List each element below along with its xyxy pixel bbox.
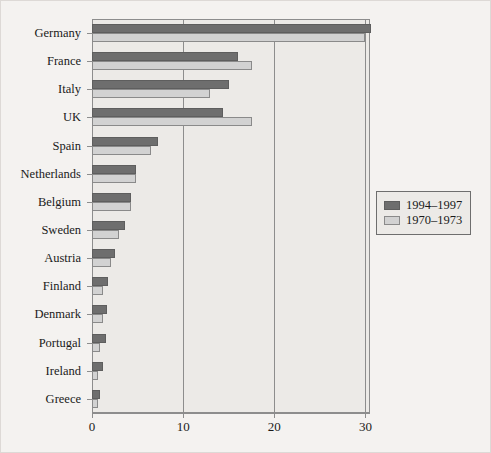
category-label-portugal: Portugal: [1, 329, 86, 357]
x-axis-line: [92, 413, 370, 414]
category-label-greece: Greece: [1, 385, 86, 413]
x-tick-label-10: 10: [177, 419, 190, 435]
bar-france-1994–1997: [92, 52, 238, 61]
bar-group-spain: [92, 132, 370, 160]
category-label-sweden: Sweden: [1, 216, 86, 244]
bar-greece-1970–1973: [92, 399, 98, 408]
bar-group-uk: [92, 103, 370, 131]
bar-italy-1970–1973: [92, 89, 210, 98]
category-label-ireland: Ireland: [1, 357, 86, 385]
x-tick-label-20: 20: [268, 419, 281, 435]
bars-container: [92, 19, 370, 413]
bar-portugal-1970–1973: [92, 343, 100, 352]
bar-sweden-1970–1973: [92, 230, 119, 239]
category-label-finland: Finland: [1, 272, 86, 300]
light-gray-swatch: [384, 216, 400, 225]
category-label-austria: Austria: [1, 244, 86, 272]
bar-ireland-1994–1997: [92, 362, 103, 371]
bar-group-portugal: [92, 329, 370, 357]
chart-legend: 1994–19971970–1973: [376, 191, 471, 235]
bar-netherlands-1970–1973: [92, 174, 136, 183]
bar-italy-1994–1997: [92, 80, 229, 89]
bar-chart-figure: GermanyFranceItalyUKSpainNetherlandsBelg…: [0, 0, 491, 453]
x-axis: 0102030: [92, 413, 370, 443]
category-label-italy: Italy: [1, 75, 86, 103]
bar-spain-1970–1973: [92, 146, 151, 155]
bar-germany-1970–1973: [92, 33, 365, 42]
bar-denmark-1994–1997: [92, 305, 107, 314]
bar-group-denmark: [92, 300, 370, 328]
bar-denmark-1970–1973: [92, 314, 103, 323]
legend-label: 1970–1973: [406, 213, 462, 228]
bar-group-netherlands: [92, 160, 370, 188]
category-label-netherlands: Netherlands: [1, 160, 86, 188]
bar-sweden-1994–1997: [92, 221, 125, 230]
bar-belgium-1970–1973: [92, 202, 131, 211]
bar-belgium-1994–1997: [92, 193, 131, 202]
x-tick-mark-10: [183, 413, 184, 418]
bar-austria-1970–1973: [92, 258, 111, 267]
legend-item-1994–1997: 1994–1997: [384, 198, 462, 213]
bar-uk-1994–1997: [92, 108, 223, 117]
legend-item-1970–1973: 1970–1973: [384, 213, 462, 228]
x-tick-mark-20: [274, 413, 275, 418]
x-tick-label-30: 30: [359, 419, 372, 435]
category-axis-labels: GermanyFranceItalyUKSpainNetherlandsBelg…: [1, 19, 86, 413]
bar-group-belgium: [92, 188, 370, 216]
bar-group-finland: [92, 272, 370, 300]
legend-label: 1994–1997: [406, 198, 462, 213]
bar-group-sweden: [92, 216, 370, 244]
bar-austria-1994–1997: [92, 249, 115, 258]
bar-group-germany: [92, 19, 370, 47]
bar-greece-1994–1997: [92, 390, 100, 399]
bar-uk-1970–1973: [92, 117, 252, 126]
bar-group-greece: [92, 385, 370, 413]
category-label-france: France: [1, 47, 86, 75]
bar-ireland-1970–1973: [92, 371, 98, 380]
category-label-denmark: Denmark: [1, 300, 86, 328]
category-label-belgium: Belgium: [1, 188, 86, 216]
bar-spain-1994–1997: [92, 137, 158, 146]
x-tick-label-0: 0: [89, 419, 96, 435]
bar-group-france: [92, 47, 370, 75]
bar-group-austria: [92, 244, 370, 272]
bar-finland-1994–1997: [92, 277, 108, 286]
category-label-uk: UK: [1, 103, 86, 131]
x-tick-mark-30: [365, 413, 366, 418]
bar-group-italy: [92, 75, 370, 103]
bar-finland-1970–1973: [92, 286, 103, 295]
bar-portugal-1994–1997: [92, 334, 106, 343]
category-label-spain: Spain: [1, 132, 86, 160]
x-tick-mark-0: [92, 413, 93, 418]
bar-netherlands-1994–1997: [92, 165, 136, 174]
category-label-germany: Germany: [1, 19, 86, 47]
bar-group-ireland: [92, 357, 370, 385]
dark-gray-swatch: [384, 201, 400, 210]
bar-germany-1994–1997: [92, 24, 371, 33]
bar-france-1970–1973: [92, 61, 252, 70]
